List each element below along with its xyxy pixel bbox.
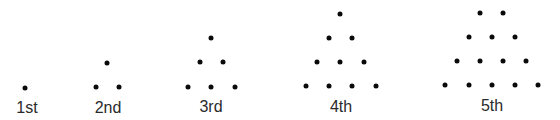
dot [327, 84, 332, 89]
figure-label: 1st [16, 100, 37, 116]
dot [490, 83, 495, 88]
dot [338, 60, 343, 65]
dot [501, 11, 506, 16]
figure-label: 2nd [95, 100, 122, 116]
dot [501, 59, 506, 64]
dot [209, 36, 214, 41]
dot [350, 36, 355, 41]
dot [198, 60, 203, 65]
dot [362, 60, 367, 65]
dot [105, 61, 110, 66]
dot [94, 85, 99, 90]
dot [478, 59, 483, 64]
dot [467, 83, 472, 88]
dot [209, 85, 214, 90]
dot [443, 83, 448, 88]
dot [304, 84, 309, 89]
dot [513, 83, 518, 88]
dot [338, 12, 343, 17]
dot [117, 85, 122, 90]
dot [23, 86, 28, 91]
figure-label: 3rd [199, 99, 222, 115]
dot [513, 35, 518, 40]
dot [350, 84, 355, 89]
dot [467, 35, 472, 40]
dot [524, 59, 529, 64]
dot [315, 60, 320, 65]
dot [490, 35, 495, 40]
figure-label: 5th [481, 98, 503, 114]
dot [221, 60, 226, 65]
dot [478, 11, 483, 16]
dot [536, 83, 541, 88]
dot [327, 36, 332, 41]
dot [186, 85, 191, 90]
dot [233, 85, 238, 90]
pattern-diagram: 1st 2nd 3rd 4th 5th [0, 0, 560, 120]
dot [455, 59, 460, 64]
figure-label: 4th [330, 99, 352, 115]
dot [374, 84, 379, 89]
